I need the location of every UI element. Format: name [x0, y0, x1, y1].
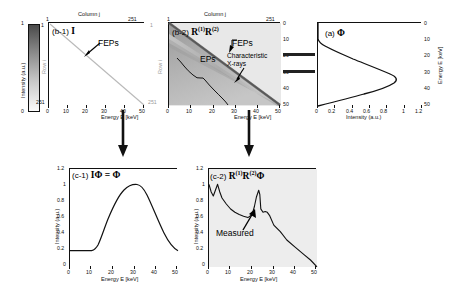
panel-c2-plot-area [208, 168, 316, 266]
panel-a-id: (a) [325, 29, 335, 38]
panel-a-ytick-0: 0 [424, 20, 427, 26]
panel-b2-top-axis-label: Column j [204, 11, 226, 17]
panel-c1-y-axis-label: Intensity (a.u.) [54, 209, 60, 244]
panel-c1-ytick-0: 0 [63, 261, 66, 267]
panel-b2-left-axis-label: Row i [157, 60, 163, 74]
panel-c2-sup-1: (1) [236, 170, 243, 176]
panel-b1-xlabel-0: 0 [46, 108, 49, 114]
connector-bar-20kev [283, 53, 315, 56]
panel-c2-xlabel-20: 20 [247, 269, 253, 275]
panel-c2-xlabel-30: 30 [269, 269, 275, 275]
panel-c2-xlabel-10: 10 [225, 269, 231, 275]
panel-b2-symbol-1: R [191, 27, 198, 37]
panel-a-title: (a) Φ [325, 28, 345, 38]
panel-c2-ytick-12: 1.2 [196, 165, 203, 171]
panel-c1-ytick-1: 1 [63, 181, 66, 187]
panel-c2-symbol-3: Φ [256, 171, 264, 181]
panel-b1-left-axis-label: Row i [41, 60, 47, 74]
panel-b2-xlabel-20: 20 [209, 108, 215, 114]
panel-b1-id: (b-1) [52, 27, 69, 36]
panel-b2-xlabel-50: 50 [275, 108, 281, 114]
panel-c2-title: (c-2) R(1)R(2)Φ [210, 170, 264, 181]
panel-a-ytick-30: 30 [424, 69, 430, 75]
panel-b2-id: (b-2) [172, 28, 189, 37]
panel-b2-left-tick-last: 251 [148, 99, 157, 105]
panel-c1-curve [70, 169, 178, 267]
panel-b1-xlabel-50: 50 [139, 108, 145, 114]
panel-b2-left-tick-first: 1 [150, 22, 153, 28]
panel-b1-symbol: I [71, 26, 75, 36]
connector-bar-31kev [283, 70, 315, 73]
panel-c1-ytick-08: 0.8 [57, 197, 64, 203]
arrow-b1-to-c1 [117, 110, 129, 158]
panel-c2-xlabel-0: 0 [206, 269, 209, 275]
panel-c2-ytick-0: 0 [202, 261, 205, 267]
panel-c2-x-axis-label: Energy E [keV] [240, 276, 277, 282]
panel-b2: Column j 1 251 1 251 Row i [158, 12, 288, 122]
panel-c1-xlabel-30: 30 [130, 269, 136, 275]
panel-b1-top-axis-label: Column j [78, 11, 100, 17]
panel-a-ytick-50: 50 [424, 101, 430, 107]
panel-b2-right-tick-0: 0 [283, 20, 286, 26]
panel-c2-measured-arrow [240, 208, 260, 232]
panel-a-xlabel-12: 1.2 [415, 108, 422, 114]
panel-b1-title: (b-1) I [52, 26, 75, 36]
colorbar-min-label: 0 [21, 108, 24, 114]
panel-b1-feps-arrow [80, 40, 102, 60]
panel-c1-title: (c-1) IΦ = Φ [72, 170, 120, 180]
panel-c1-xlabel-50: 50 [172, 269, 178, 275]
panel-a: (a) Φ 0 10 20 30 40 50 Energy E [keV] 0 … [313, 12, 448, 122]
panel-b2-sup-2: (2) [212, 26, 219, 32]
panel-c1-xlabel-10: 10 [86, 269, 92, 275]
panel-c2-ytick-1: 1 [202, 181, 205, 187]
panel-c2-symbol-1: R [229, 171, 236, 181]
panel-b1-xlabel-10: 10 [63, 108, 69, 114]
panel-c1-ytick-12: 1.2 [57, 165, 64, 171]
panel-c2-xlabel-40: 40 [290, 269, 296, 275]
panel-b1: Column j 1 251 1 251 Row i (b-1) I FEPs … [40, 12, 145, 122]
panel-a-ytick-20: 20 [424, 52, 430, 58]
panel-a-xlabel-0: 0 [315, 108, 318, 114]
panel-b1-xlabel-20: 20 [82, 108, 88, 114]
panel-b2-xlabel-10: 10 [186, 108, 192, 114]
panel-b2-right-tick-50: 50 [283, 101, 289, 107]
colorbar-max-label: 1 [21, 20, 24, 26]
panel-c1-plot-area [69, 168, 177, 266]
panel-c2-xlabel-50: 50 [311, 269, 317, 275]
panel-b2-title: (b-2) R(1)R(2) [172, 26, 219, 37]
panel-a-xlabel-1: 1 [402, 108, 405, 114]
panel-c2-ytick-02: 0.2 [196, 245, 203, 251]
panel-c2-curve [209, 169, 317, 267]
panel-c2-ytick-08: 0.8 [196, 197, 203, 203]
panel-c2-id: (c-2) [210, 172, 226, 181]
figure-root: 1 0 Intensity (a.u.) Column j 1 251 1 25… [0, 0, 454, 303]
panel-c2-y-axis-label: Intensity (a.u.) [193, 209, 199, 244]
panel-b2-sup-1: (1) [198, 26, 205, 32]
panel-c1-xlabel-0: 0 [67, 269, 70, 275]
panel-c1-xlabel-20: 20 [108, 269, 114, 275]
panel-c1-id: (c-1) [72, 171, 88, 180]
panel-a-y-axis-label: Energy E [keV] [437, 47, 443, 84]
panel-b2-xlabel-0: 0 [166, 108, 169, 114]
panel-c1-xlabel-40: 40 [151, 269, 157, 275]
panel-b2-eps-brace [175, 56, 231, 108]
panel-b2-xrays-label: Characteristic X-rays [227, 52, 273, 67]
panel-c1-ytick-02: 0.2 [57, 245, 64, 251]
panel-a-symbol: Φ [337, 28, 345, 38]
panel-b2-symbol-2: R [205, 27, 212, 37]
panel-c1-x-axis-label: Energy E [keV] [101, 276, 138, 282]
panel-c1-expr: IΦ = Φ [91, 170, 121, 180]
panel-c2: (c-2) R(1)R(2)Φ Measured 1.2 1 0.8 0.6 0… [180, 160, 325, 300]
panel-b2-right-tick-10: 10 [283, 36, 289, 42]
panel-a-x-axis-label: Intensity (a.u.) [346, 114, 381, 120]
arrow-b2-to-c2 [243, 110, 255, 158]
panel-b2-xrays-arrow [232, 67, 250, 85]
panel-b1-left-tick-last: 251 [36, 99, 45, 105]
panel-a-ytick-40: 40 [424, 85, 430, 91]
panel-b1-left-tick-first: 1 [41, 22, 44, 28]
panel-b2-right-tick-40: 40 [283, 85, 289, 91]
panel-a-xlabel-02: 0.2 [328, 108, 335, 114]
colorbar-axis-label: Intensity (a.u.) [20, 63, 26, 98]
panel-a-ytick-10: 10 [424, 36, 430, 42]
panel-c1: (c-1) IΦ = Φ 1.2 1 0.8 0.6 0.4 0.2 0 Int… [47, 160, 187, 300]
